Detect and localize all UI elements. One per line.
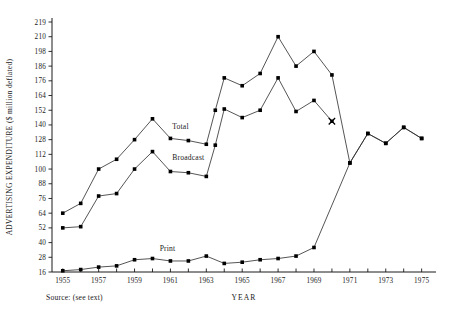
x-tick-label: 1969 (306, 277, 321, 285)
data-point-marker (79, 268, 83, 272)
data-point-marker (169, 259, 173, 263)
data-point-marker (312, 99, 316, 103)
data-point-marker (258, 108, 262, 112)
y-tick-label: 219 (35, 19, 47, 27)
y-tick-label: 198 (35, 48, 47, 56)
data-point-marker (79, 225, 83, 229)
x-tick-label: 1967 (270, 277, 285, 285)
y-axis-title: ADVERTISING EXPENDITURE ($ million defla… (5, 58, 14, 235)
data-point-marker (151, 150, 155, 154)
data-point-marker (115, 192, 119, 196)
y-tick-label: 112 (35, 151, 46, 159)
data-point-marker (294, 64, 298, 68)
data-point-marker (169, 137, 173, 141)
data-point-marker (420, 137, 424, 141)
data-point-marker (258, 258, 262, 262)
data-point-marker (258, 72, 262, 76)
data-point-marker (294, 110, 298, 114)
data-point-marker (97, 194, 101, 198)
y-axis-tick-labels: 1628405264768810011212814015216417618619… (35, 19, 47, 277)
y-tick-label: 16 (38, 269, 46, 277)
data-point-marker (384, 142, 388, 146)
y-tick-label: 186 (35, 63, 47, 71)
y-tick-label: 40 (38, 239, 46, 247)
data-point-marker (61, 269, 65, 273)
data-point-marker (312, 246, 316, 250)
data-point-marker (115, 264, 119, 268)
y-tick-label: 152 (35, 107, 47, 115)
data-point-marker (222, 262, 226, 266)
x-tick-label: 1975 (414, 277, 429, 285)
data-point-marker (187, 259, 191, 263)
x-tick-label: 1963 (199, 277, 214, 285)
y-axis-ticks (49, 22, 53, 272)
source-note: Source: (see text) (46, 293, 103, 302)
y-tick-label: 88 (38, 180, 46, 188)
data-series-group (63, 37, 422, 271)
data-point-marker (151, 117, 155, 121)
data-point-marker (205, 175, 209, 179)
data-point-marker (205, 142, 209, 146)
x-tick-label: 1961 (163, 277, 178, 285)
data-point-marker (133, 258, 137, 262)
data-point-marker (187, 171, 191, 175)
x-tick-label: 1959 (127, 277, 142, 285)
data-point-marker (240, 260, 244, 264)
series-label-print: Print (160, 244, 176, 253)
data-point-marker (276, 257, 280, 261)
data-point-marker (187, 139, 191, 143)
data-point-marker (240, 84, 244, 88)
data-point-marker (115, 157, 119, 161)
data-point-marker (348, 161, 352, 165)
data-point-marker (402, 126, 406, 130)
y-tick-label: 176 (35, 77, 47, 85)
data-point-marker (133, 138, 137, 142)
data-point-marker (222, 107, 226, 111)
x-axis-ticks (63, 269, 422, 273)
series-inline-labels: TotalBroadcastPrint (160, 122, 205, 254)
series-label-broadcast: Broadcast (172, 153, 205, 162)
x-axis-tick-labels: 1955195719591961196319651967196919711973… (55, 277, 429, 285)
data-point-marker (213, 108, 217, 112)
x-tick-label: 1973 (378, 277, 393, 285)
series-line-total (63, 37, 422, 213)
data-point-marker (276, 35, 280, 39)
x-tick-label: 1955 (55, 277, 70, 285)
line-chart-svg: 1628405264768810011212814015216417618619… (0, 0, 460, 318)
data-point-marker (61, 226, 65, 230)
x-tick-label: 1957 (91, 277, 106, 285)
data-point-marker (366, 132, 370, 136)
x-axis-title: YEAR (231, 293, 256, 302)
data-point-marker (133, 167, 137, 171)
y-tick-label: 128 (35, 136, 47, 144)
data-point-marker (294, 254, 298, 258)
y-tick-label: 140 (35, 121, 47, 129)
x-tick-label: 1965 (235, 277, 250, 285)
data-point-marker (222, 76, 226, 80)
data-point-marker (205, 254, 209, 258)
y-tick-label: 210 (35, 33, 47, 41)
data-point-marker (79, 202, 83, 206)
data-point-marker (151, 257, 155, 261)
y-tick-label: 64 (38, 210, 46, 218)
data-point-marker (169, 170, 173, 174)
series-label-total: Total (172, 122, 189, 131)
data-point-marker (312, 50, 316, 54)
series-line-print (63, 127, 422, 270)
data-point-marker (97, 167, 101, 171)
data-point-marker (330, 73, 334, 77)
chart-figure: 1628405264768810011212814015216417618619… (0, 0, 460, 318)
data-point-marker (97, 265, 101, 269)
y-tick-label: 76 (38, 195, 46, 203)
data-markers-group (61, 35, 423, 273)
axes (49, 18, 437, 272)
y-tick-label: 164 (35, 92, 47, 100)
data-point-marker (213, 143, 217, 147)
y-tick-label: 28 (38, 254, 46, 262)
data-point-marker (276, 76, 280, 80)
x-tick-label: 1971 (342, 277, 357, 285)
y-tick-label: 100 (35, 166, 47, 174)
data-point-marker (61, 211, 65, 215)
data-point-marker (240, 116, 244, 120)
series-end-x-marker (329, 118, 335, 124)
